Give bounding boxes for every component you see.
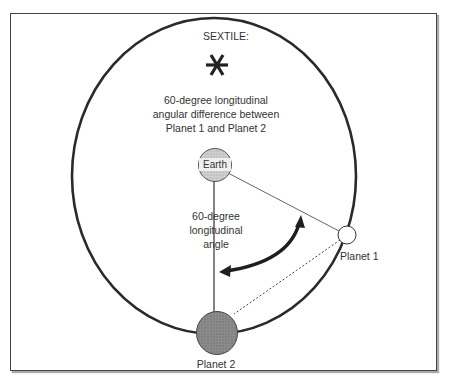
earth-label: Earth [199, 158, 231, 171]
planet2-label: Planet 2 [176, 357, 256, 371]
sextile-diagram [0, 0, 452, 383]
angle-label-line: angle [176, 237, 256, 251]
planet1-label: Planet 1 [340, 249, 379, 263]
sextile-description: 60-degree longitudinal angular differenc… [116, 93, 316, 135]
planet1-circle [338, 226, 356, 244]
description-line: angular difference between [116, 107, 316, 121]
angle-label-line: longitudinal [176, 223, 256, 237]
description-line: Planet 1 and Planet 2 [116, 121, 316, 135]
angle-label-line: 60-degree [176, 209, 256, 223]
angle-label: 60-degree longitudinal angle [176, 209, 256, 251]
diagram-title: SEXTILE: [0, 29, 452, 43]
description-line: 60-degree longitudinal [116, 93, 316, 107]
planet2-circle [197, 312, 238, 355]
sextile-symbol-icon [206, 55, 228, 75]
